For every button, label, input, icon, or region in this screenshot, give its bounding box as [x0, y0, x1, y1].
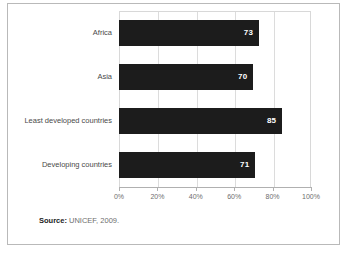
source-label: Source:	[39, 216, 67, 225]
bar-row: 71	[119, 152, 311, 178]
bar-value-label: 73	[244, 29, 253, 37]
category-label: Africa	[11, 20, 119, 46]
bar[interactable]: 73	[119, 20, 259, 46]
source-note: Source: UNICEF, 2009.	[39, 216, 119, 225]
source-text: UNICEF, 2009.	[69, 216, 119, 225]
x-axis-tick-label: 20%	[150, 193, 164, 200]
x-axis-tick	[311, 187, 312, 191]
bar-value-label: 70	[238, 73, 247, 81]
category-label: Least developed countries	[11, 108, 119, 134]
bar-value-label: 85	[267, 117, 276, 125]
bar[interactable]: 70	[119, 64, 253, 90]
bar-row: 85	[119, 108, 311, 134]
x-axis-tick-label: 0%	[114, 193, 124, 200]
figure-root: 0%20%40%60%80%100%73Africa70Asia85Least …	[0, 0, 352, 256]
figure-frame: 0%20%40%60%80%100%73Africa70Asia85Least …	[7, 3, 340, 245]
x-axis-tick-label: 60%	[227, 193, 241, 200]
x-axis-tick-label: 100%	[302, 193, 320, 200]
bar-row: 70	[119, 64, 311, 90]
x-axis-tick-label: 80%	[266, 193, 280, 200]
bar[interactable]: 85	[119, 108, 282, 134]
x-axis-tick-label: 40%	[189, 193, 203, 200]
bar[interactable]: 71	[119, 152, 255, 178]
bar-row: 73	[119, 20, 311, 46]
bar-chart: 0%20%40%60%80%100%73Africa70Asia85Least …	[8, 4, 341, 246]
category-label: Asia	[11, 64, 119, 90]
bar-value-label: 71	[240, 161, 249, 169]
x-axis-line	[119, 187, 311, 188]
category-label: Developing countries	[11, 152, 119, 178]
